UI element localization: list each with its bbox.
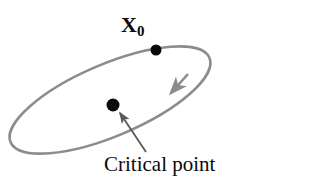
orbit-direction-arrow [171, 74, 188, 93]
critical-point-label: Critical point [104, 154, 215, 175]
critical-point [107, 99, 120, 112]
initial-condition-label: X0 [121, 14, 144, 39]
initial-condition-label-subscript: 0 [137, 23, 145, 39]
initial-condition-label-base: X [121, 12, 137, 37]
initial-condition-point [151, 45, 162, 56]
